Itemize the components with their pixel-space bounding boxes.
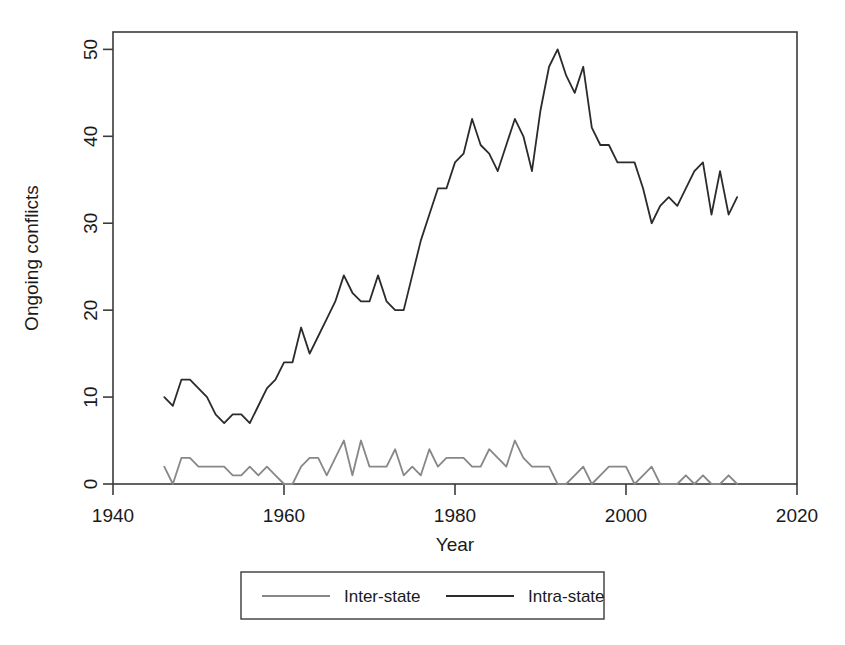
plot-frame [113, 32, 797, 484]
x-tick-label-1940: 1940 [92, 505, 134, 526]
y-tick-label-40: 40 [80, 126, 101, 147]
series-line-inter-state [164, 441, 737, 484]
series-group [164, 49, 737, 484]
x-tick-label-2020: 2020 [776, 505, 818, 526]
ongoing-conflicts-line-chart: 01020304050 19401960198020002020 Year On… [0, 0, 845, 645]
legend-label-intra-state: Intra-state [528, 587, 605, 606]
chart-legend: Inter-state Intra-state [241, 572, 605, 619]
series-line-intra-state [164, 49, 737, 423]
x-tick-label-2000: 2000 [605, 505, 647, 526]
y-tick-label-30: 30 [80, 213, 101, 234]
x-tick-label-1980: 1980 [434, 505, 476, 526]
y-tick-label-10: 10 [80, 387, 101, 408]
x-axis-ticks: 19401960198020002020 [92, 484, 818, 526]
x-tick-label-1960: 1960 [263, 505, 305, 526]
y-axis-title: Ongoing conflicts [21, 185, 42, 331]
legend-label-inter-state: Inter-state [344, 587, 421, 606]
y-axis-ticks: 01020304050 [80, 39, 113, 489]
x-axis-title: Year [436, 534, 475, 555]
y-tick-label-0: 0 [80, 479, 101, 490]
y-tick-label-50: 50 [80, 39, 101, 60]
y-tick-label-20: 20 [80, 300, 101, 321]
chart-figure: 01020304050 19401960198020002020 Year On… [0, 0, 845, 645]
